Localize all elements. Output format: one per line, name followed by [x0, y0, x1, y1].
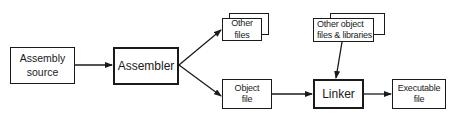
node-assembly-source: Assembly source — [10, 47, 75, 84]
node-label-line: Assembler — [118, 59, 175, 74]
node-label-line: Linker — [322, 87, 355, 102]
arrow-assembler-to-other-files — [179, 30, 221, 65]
node-label-line: source — [20, 66, 66, 79]
arrow-libraries-to-linker — [336, 42, 342, 78]
node-other-object-files-libraries: Other object files & libraries — [313, 18, 374, 42]
node-label-line: file — [235, 94, 260, 105]
node-label-line: Assembly — [20, 52, 66, 65]
node-label-line: Other object — [317, 19, 372, 30]
node-label-line: files & libraries — [317, 30, 372, 41]
node-executable-file: Executable file — [392, 79, 446, 109]
arrow-assembler-to-object-file — [179, 65, 221, 96]
node-label-line: Executable — [398, 83, 441, 94]
node-other-files: Other files — [222, 18, 262, 41]
node-label-line: Other — [231, 18, 253, 29]
node-assembler: Assembler — [113, 47, 179, 85]
node-label-line: files — [231, 30, 253, 41]
node-label-line: Object — [235, 83, 260, 94]
node-linker: Linker — [313, 79, 364, 109]
node-object-file: Object file — [222, 79, 272, 109]
node-label-line: file — [398, 94, 441, 105]
